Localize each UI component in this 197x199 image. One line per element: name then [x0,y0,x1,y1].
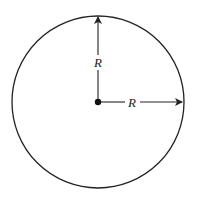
center-point [95,99,101,105]
circle-radius-diagram: R R [0,0,197,199]
horizontal-radius-label: R [127,95,136,110]
vertical-radius-label: R [93,55,102,70]
